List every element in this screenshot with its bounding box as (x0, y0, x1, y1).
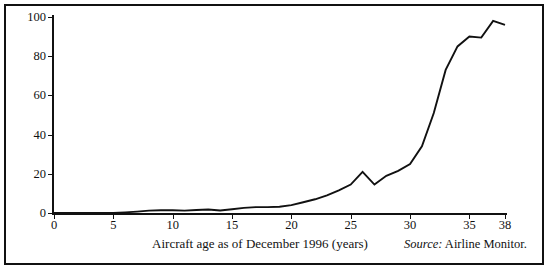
x-axis-tick-label: 30 (395, 219, 425, 232)
y-axis-tick-mark (48, 95, 53, 96)
plot-area (54, 17, 505, 213)
source-text: Airline Monitor. (445, 237, 527, 251)
x-axis-tick-label: 25 (336, 219, 366, 232)
x-axis-tick-label: 20 (276, 219, 306, 232)
y-axis-tick-mark (48, 56, 53, 57)
source-note: Source: Airline Monitor. (404, 237, 527, 252)
y-axis-tick-label: 80 (0, 50, 46, 63)
y-axis-tick-label: 40 (0, 129, 46, 142)
source-prefix: Source: (404, 237, 442, 251)
line-chart-svg (54, 17, 505, 213)
y-axis-tick-label: 100 (0, 11, 46, 24)
x-axis-label: Aircraft age as of December 1996 (years) (110, 236, 410, 252)
y-axis-tick-label: 0 (0, 207, 46, 220)
y-axis-tick-label: 60 (0, 89, 46, 102)
data-series-line (54, 21, 505, 213)
x-axis-tick-label: 35 (454, 219, 484, 232)
y-axis-tick-mark (48, 174, 53, 175)
x-axis-tick-label: 38 (490, 219, 520, 232)
figure-container: % of deliveries retire 020406080100 0510… (0, 0, 548, 269)
y-axis-tick-mark (48, 17, 53, 18)
y-axis-tick-label: 20 (0, 168, 46, 181)
x-axis-tick-label: 10 (158, 219, 188, 232)
y-axis-tick-mark (48, 213, 53, 214)
y-axis-tick-mark (48, 135, 53, 136)
x-axis-tick-label: 0 (39, 219, 69, 232)
x-axis-tick-label: 15 (217, 219, 247, 232)
x-axis-tick-label: 5 (98, 219, 128, 232)
